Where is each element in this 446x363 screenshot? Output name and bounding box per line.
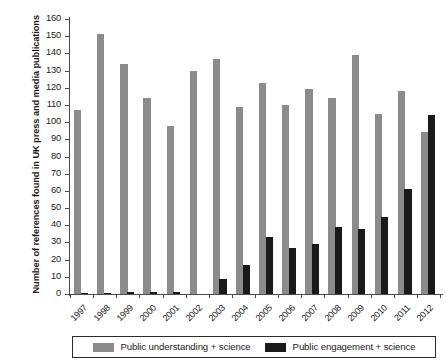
y-axis-tick — [65, 36, 70, 37]
x-axis-tick — [186, 294, 187, 298]
legend-item-public-engagement[interactable]: Public engagement + science — [265, 342, 416, 352]
x-axis-tick — [209, 294, 210, 298]
bar — [120, 64, 127, 294]
x-axis-tick — [371, 294, 372, 298]
bar — [219, 279, 226, 294]
x-axis-tick — [278, 294, 279, 298]
y-axis-tick — [65, 242, 70, 243]
bar — [335, 227, 342, 294]
y-axis-tick — [65, 277, 70, 278]
y-axis-tick — [65, 157, 70, 158]
y-axis-tick-label: 100 — [31, 117, 61, 126]
y-axis-tick — [65, 53, 70, 54]
legend-label-public-understanding: Public understanding + science — [121, 342, 251, 352]
legend-swatch-icon-public-understanding — [93, 343, 114, 352]
y-axis-tick — [65, 174, 70, 175]
y-axis-tick — [65, 88, 70, 89]
bar — [404, 189, 411, 294]
y-axis-tick-label: 90 — [31, 134, 61, 143]
bar — [190, 71, 197, 294]
x-axis-tick — [116, 294, 117, 298]
x-axis-tick — [93, 294, 94, 298]
bar — [150, 292, 157, 294]
bar — [213, 59, 220, 294]
bar — [81, 293, 88, 294]
y-axis-tick-label: 60 — [31, 186, 61, 195]
x-axis-tick — [440, 294, 441, 298]
x-axis-tick — [70, 294, 71, 298]
legend-item-public-understanding[interactable]: Public understanding + science — [93, 342, 251, 352]
bar — [289, 248, 296, 294]
y-axis-tick-label: 70 — [31, 169, 61, 178]
bar — [127, 292, 134, 294]
y-axis-tick — [65, 139, 70, 140]
bar — [428, 115, 435, 294]
bar — [104, 293, 111, 294]
y-axis-tick — [65, 105, 70, 106]
y-axis-tick — [65, 208, 70, 209]
y-axis-tick-label: 150 — [31, 31, 61, 40]
bar — [173, 292, 180, 294]
y-axis-tick — [65, 71, 70, 72]
bar — [381, 217, 388, 294]
bar — [266, 237, 273, 294]
y-axis-tick — [65, 122, 70, 123]
y-axis-tick-label: 40 — [31, 220, 61, 229]
bar — [358, 229, 365, 294]
x-axis-tick — [255, 294, 256, 298]
x-axis-tick — [324, 294, 325, 298]
y-axis-tick-label: 120 — [31, 83, 61, 92]
bar — [312, 244, 319, 294]
y-axis-tick — [65, 191, 70, 192]
bar — [167, 126, 174, 294]
y-axis-tick-label: 0 — [31, 289, 61, 298]
y-axis-tick-label: 140 — [31, 48, 61, 57]
x-axis-tick — [232, 294, 233, 298]
y-axis-tick-label: 80 — [31, 152, 61, 161]
y-axis-tick-label: 50 — [31, 203, 61, 212]
y-axis-tick — [65, 225, 70, 226]
y-axis-tick-label: 10 — [31, 272, 61, 281]
x-axis-tick — [139, 294, 140, 298]
x-axis-tick — [301, 294, 302, 298]
bar — [143, 98, 150, 294]
y-axis-tick-label: 20 — [31, 255, 61, 264]
y-axis-tick — [65, 19, 70, 20]
y-axis-tick-label: 160 — [31, 14, 61, 23]
y-axis-tick-label: 130 — [31, 66, 61, 75]
x-axis-tick — [417, 294, 418, 298]
y-axis-tick-label: 110 — [31, 100, 61, 109]
bar — [97, 34, 104, 294]
bar — [74, 110, 81, 294]
bar — [243, 265, 250, 294]
y-axis-tick — [65, 260, 70, 261]
y-axis-tick-label: 30 — [31, 237, 61, 246]
x-axis-tick — [348, 294, 349, 298]
chart-legend: Public understanding + science Public en… — [72, 336, 436, 358]
legend-label-public-engagement: Public engagement + science — [293, 342, 416, 352]
bar-chart-figure: Number of references found in UK press a… — [0, 0, 446, 363]
legend-swatch-icon-public-engagement — [265, 343, 286, 352]
x-axis-tick — [163, 294, 164, 298]
x-axis-tick — [394, 294, 395, 298]
